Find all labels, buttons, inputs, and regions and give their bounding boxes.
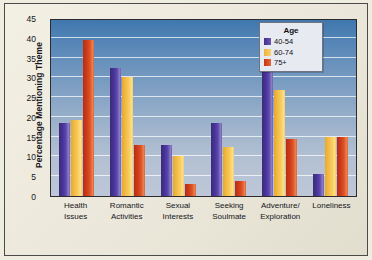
- bar: [71, 120, 82, 196]
- bar: [313, 174, 324, 196]
- legend-label: 75+: [274, 58, 287, 67]
- bar: [286, 139, 297, 196]
- x-axis-tick-label: SeekingSoulmate: [204, 200, 255, 222]
- x-axis-tick-label-line: Issues: [51, 211, 100, 222]
- x-axis-tick-labels: HealthIssuesRomanticActivitiesSexualInte…: [50, 200, 357, 222]
- bar: [185, 184, 196, 196]
- bar: [235, 181, 246, 196]
- x-axis-tick-label-line: Soulmate: [205, 211, 254, 222]
- y-axis-tick-label: 0: [14, 192, 36, 202]
- legend-entry: 75+: [264, 58, 318, 67]
- bar: [59, 123, 70, 196]
- legend-swatch-icon: [264, 59, 271, 66]
- y-axis-tick-label: 15: [14, 133, 36, 143]
- legend-swatch-icon: [264, 38, 271, 45]
- legend-entry: 40-54: [264, 37, 318, 46]
- y-axis-tick-label: 45: [14, 14, 36, 24]
- y-axis-tick-label: 40: [14, 34, 36, 44]
- legend-label: 40-54: [274, 37, 293, 46]
- legend-title: Age: [264, 26, 318, 35]
- bar: [110, 68, 121, 196]
- x-axis-tick-label: HealthIssues: [50, 200, 101, 222]
- bar-group: [153, 20, 204, 196]
- bar: [161, 145, 172, 196]
- bar: [211, 123, 222, 196]
- x-axis-tick-label-line: Sexual: [153, 200, 202, 211]
- figure-container: Percentage Mentioning Theme 051015202530…: [0, 0, 372, 260]
- bar: [262, 68, 273, 196]
- x-axis-tick-label-line: Interests: [153, 211, 202, 222]
- y-axis-tick-label: 5: [14, 172, 36, 182]
- bar: [223, 147, 234, 196]
- bar: [83, 40, 94, 196]
- figure-frame: Percentage Mentioning Theme 051015202530…: [4, 3, 368, 256]
- x-axis-tick-label-line: Activities: [102, 211, 151, 222]
- x-axis-tick-label: SexualInterests: [152, 200, 203, 222]
- y-axis-tick-label: 20: [14, 113, 36, 123]
- y-axis-tick-label: 30: [14, 73, 36, 83]
- y-axis-tick-label: 25: [14, 93, 36, 103]
- legend: Age 40-5460-7475+: [259, 22, 323, 72]
- legend-entry: 60-74: [264, 48, 318, 57]
- x-axis-tick-label-line: Loneliness: [307, 200, 356, 211]
- bar: [337, 137, 348, 196]
- x-axis-tick-label: Adventure/Exploration: [255, 200, 306, 222]
- legend-label: 60-74: [274, 48, 293, 57]
- bar: [173, 156, 184, 196]
- y-axis-tick-label: 10: [14, 152, 36, 162]
- x-axis-tick-label-line: Romantic: [102, 200, 151, 211]
- x-axis-tick-label: RomanticActivities: [101, 200, 152, 222]
- bar-group: [102, 20, 153, 196]
- bar-group: [203, 20, 254, 196]
- x-axis-tick-label-line: Seeking: [205, 200, 254, 211]
- bar: [122, 77, 133, 196]
- x-axis-tick-label-line: Exploration: [256, 211, 305, 222]
- y-axis-tick-label: 35: [14, 54, 36, 64]
- x-axis-tick-label-line: Adventure/: [256, 200, 305, 211]
- legend-entries: 40-5460-7475+: [264, 37, 318, 67]
- bar: [274, 90, 285, 196]
- bar: [325, 137, 336, 196]
- x-axis-tick-label-line: Health: [51, 200, 100, 211]
- bar: [134, 145, 145, 196]
- bar-group: [51, 20, 102, 196]
- legend-swatch-icon: [264, 49, 271, 56]
- x-axis-tick-label: Loneliness: [306, 200, 357, 222]
